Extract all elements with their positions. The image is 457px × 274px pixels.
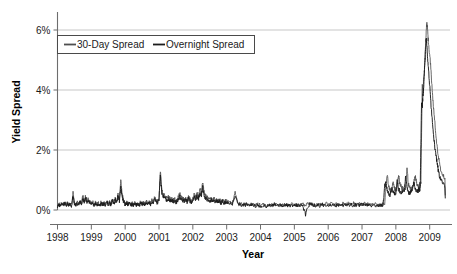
x-tick-label-3: 2001 bbox=[148, 232, 171, 243]
x-tick-label-1: 1999 bbox=[80, 232, 103, 243]
x-tick-label-8: 2006 bbox=[317, 232, 340, 243]
x-tick-label-7: 2005 bbox=[283, 232, 306, 243]
y-tick-label-0: 0% bbox=[36, 205, 51, 216]
x-tick-label-0: 1998 bbox=[46, 232, 69, 243]
y-tick-label-3: 6% bbox=[36, 25, 51, 36]
gridlines-group bbox=[58, 30, 451, 210]
yield-spread-line-chart: 0%2%4%6% 1998199920002001200220032004200… bbox=[0, 0, 457, 274]
x-axis-title: Year bbox=[242, 248, 264, 260]
y-tick-label-1: 2% bbox=[36, 145, 51, 156]
y-axis-tick-labels: 0%2%4%6% bbox=[36, 25, 51, 216]
y-axis-title: Yield Spread bbox=[10, 80, 22, 143]
legend-label-30-day-spread: 30-Day Spread bbox=[77, 39, 144, 50]
x-axis-tick-labels: 1998199920002001200220032004200520062007… bbox=[46, 232, 441, 243]
series-line-overnight-spread bbox=[58, 38, 446, 216]
chart-screenshot: 0%2%4%6% 1998199920002001200220032004200… bbox=[0, 0, 457, 274]
x-tick-label-11: 2009 bbox=[419, 232, 442, 243]
x-tick-label-2: 2000 bbox=[114, 232, 137, 243]
x-tick-label-5: 2003 bbox=[216, 232, 239, 243]
y-tick-label-2: 4% bbox=[36, 85, 51, 96]
legend-label-overnight-spread: Overnight Spread bbox=[166, 39, 244, 50]
tickmarks-group bbox=[54, 30, 430, 230]
x-tick-label-6: 2004 bbox=[249, 232, 272, 243]
chart-legend[interactable]: 30-Day Spread Overnight Spread bbox=[58, 36, 255, 54]
x-tick-label-4: 2002 bbox=[182, 232, 205, 243]
x-tick-label-10: 2008 bbox=[385, 232, 408, 243]
x-tick-label-9: 2007 bbox=[351, 232, 374, 243]
